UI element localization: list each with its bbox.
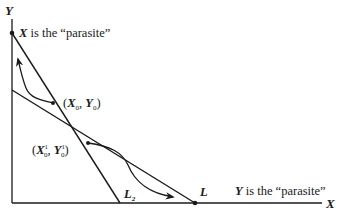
paren-close: ): [64, 143, 68, 157]
paren-close: ): [96, 96, 100, 110]
line-l2: [12, 33, 120, 203]
label-l2: L2: [123, 187, 136, 203]
l2-sub: 2: [131, 195, 136, 203]
label-x1y1: (X10, Y10): [32, 143, 69, 159]
l2-main: L: [123, 187, 132, 201]
y-parasite-annotation: Y is the “parasite”: [235, 184, 326, 198]
y-axis-label: Y: [5, 3, 14, 18]
x-axis-label: X: [325, 196, 335, 211]
label-x0y0: (X0, Y0): [63, 96, 101, 112]
dot-top-intercept: [10, 31, 15, 36]
dot-l-intercept: [193, 201, 198, 206]
y-parasite-text: is the “parasite”: [243, 184, 326, 198]
x-parasite-text: is the “parasite”: [27, 26, 110, 40]
x-parasite-annotation: X is the “parasite”: [18, 26, 110, 40]
parasite-diagram: Y X X is the “parasite” Y is the “parasi…: [0, 0, 346, 218]
label-l: L: [199, 185, 208, 199]
